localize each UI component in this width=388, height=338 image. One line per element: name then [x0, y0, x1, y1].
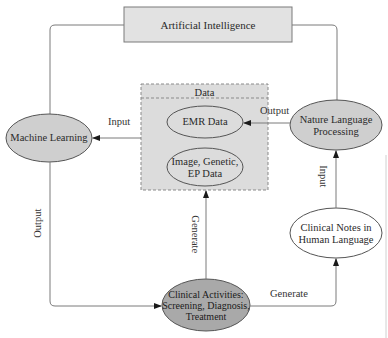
image-label-line2: EP Data [165, 168, 245, 180]
notes-label: Clinical Notes in Human Language [290, 222, 382, 245]
emr-label: EMR Data [167, 116, 243, 128]
clinical-label-line3: Treatment [160, 311, 252, 322]
clinical-label: Clinical Activities: Screening, Diagnosi… [160, 289, 252, 322]
ml-label: Machine Learning [6, 132, 92, 144]
ai-left-connector [50, 25, 124, 114]
edge-label-notes-to-nlp: Input [318, 161, 329, 191]
clinical-label-line2: Screening, Diagnosis, [160, 300, 252, 311]
notes-label-line1: Clinical Notes in [290, 222, 382, 234]
nlp-label: Nature Language Processing [290, 114, 382, 137]
edge-label-clinical-to-data: Generate [190, 209, 201, 259]
image-label: Image, Genetic, EP Data [165, 156, 245, 179]
nlp-label-line2: Processing [290, 126, 382, 138]
edge-label-ml-to-clinical: Output [33, 203, 44, 243]
edge-label-nlp-to-emr: Output [260, 106, 289, 117]
data-header-label: Data [141, 87, 268, 99]
edge-label-clinical-to-notes: Generate [270, 289, 308, 300]
nlp-label-line1: Nature Language [290, 114, 382, 126]
image-label-line1: Image, Genetic, [165, 156, 245, 168]
ai-right-connector [292, 25, 337, 100]
ai-label: Artificial Intelligence [124, 19, 292, 31]
notes-label-line2: Human Language [290, 234, 382, 246]
clinical-label-line1: Clinical Activities: [160, 289, 252, 300]
edge-label-data-to-ml: Input [108, 117, 130, 128]
